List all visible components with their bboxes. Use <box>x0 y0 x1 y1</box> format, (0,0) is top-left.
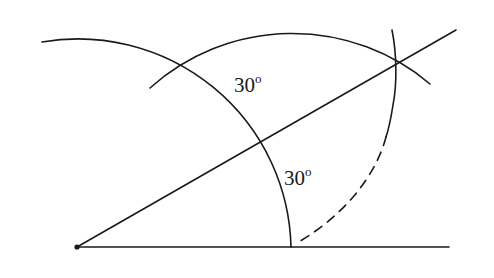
angle-label-lower: 30o <box>284 164 312 190</box>
arc-right-dashed <box>297 137 386 243</box>
arc-centered-vertex <box>42 39 291 247</box>
angle-construction-diagram: 30o 30o <box>0 0 494 278</box>
vertex-point <box>74 244 79 249</box>
arc-centered-baseline-point <box>150 33 430 88</box>
angle-label-upper: 30o <box>234 71 262 97</box>
arc-right-solid <box>386 30 396 137</box>
